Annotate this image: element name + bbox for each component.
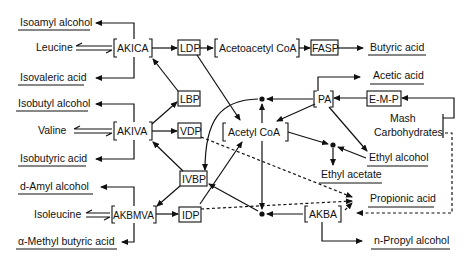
pathway-ldp-label: LDP	[180, 42, 200, 54]
bracket-left	[305, 206, 308, 222]
equilibrium-arrow	[86, 210, 110, 213]
arrow-to-isovaleric-acid	[96, 57, 134, 78]
dashed-arrow-vdp-propionic	[201, 137, 352, 197]
arrow-pa-acetylcoa	[277, 104, 315, 121]
dashed-arrow-akba-propionic	[345, 203, 352, 210]
pathway-emp-label: E-M-P	[369, 93, 399, 105]
arrow-ivbp-akiva	[153, 142, 183, 171]
bracket-right	[149, 122, 152, 140]
keto-acid-akba: AKBA	[309, 208, 337, 220]
amino-acid-valine: Valine	[38, 124, 67, 136]
equilibrium-arrow	[86, 217, 110, 220]
bracket-left	[215, 39, 218, 57]
arrow-to-d-amyl-alcohol	[101, 187, 134, 206]
product-isoamyl-alcohol: Isoamyl alcohol	[20, 16, 92, 28]
keto-acid-pa: PA	[318, 93, 331, 105]
product-alpha-methyl-butyric-acid: α-Methyl butyric acid	[18, 235, 115, 247]
arrow-acetylcoa-ester-dot	[288, 132, 328, 144]
source-carbohydrates: Carbohydrates	[374, 126, 443, 138]
keto-acid-akbmva: AKBMVA	[113, 210, 154, 221]
arrow-akiva-lbp	[152, 102, 177, 124]
product-butyric-acid: Butyric acid	[370, 41, 424, 53]
equilibrium-arrow	[74, 126, 112, 129]
product-ethyl-alcohol: Ethyl alcohol	[369, 151, 429, 163]
product-isobutyric-acid: Isobutyric acid	[20, 152, 87, 164]
arrow-lbp-akica	[153, 59, 178, 91]
pathway-lbp-label: LBP	[180, 93, 200, 105]
product-isovaleric-acid: Isovaleric acid	[20, 71, 87, 83]
arrow-to-isobutyric-acid	[96, 140, 134, 159]
bracket-right	[338, 206, 341, 222]
arrow-ethyl-alcohol-ester-dot	[338, 147, 366, 158]
pathway-fasp-label: FASP	[312, 42, 339, 54]
keto-acid-akiva: AKIVA	[117, 125, 147, 137]
intermediate-acetyl-coa: Acetyl CoA	[228, 126, 280, 138]
junction-dot	[259, 211, 264, 216]
amino-acid-isoleucine: Isoleucine	[34, 208, 81, 220]
equilibrium-arrow	[76, 43, 112, 46]
product-isobutyl-alcohol: Isobutyl alcohol	[18, 97, 90, 109]
product-acetic-acid: Acetic acid	[373, 69, 424, 81]
amino-acid-leucine: Leucine	[36, 41, 73, 53]
product-propionic-acid: Propionic acid	[370, 192, 436, 204]
junction-dot	[259, 96, 264, 101]
product-ethyl-acetate: Ethyl acetate	[321, 168, 382, 180]
equilibrium-arrow	[74, 133, 112, 136]
arrow-akba-n-propyl	[322, 222, 362, 241]
keto-acid-akica: AKICA	[117, 42, 149, 54]
product-n-propyl-alcohol: n-Propyl alcohol	[374, 234, 449, 246]
arrow-ivbp-akbmva	[157, 186, 180, 206]
pathway-ivbp-label: IVBP	[182, 173, 206, 185]
source-mash: Mash	[390, 112, 416, 124]
product-d-amyl-alcohol: d-Amyl alcohol	[20, 180, 89, 192]
bracket-left	[314, 91, 317, 107]
arrow-pa-acetic	[318, 77, 360, 91]
equilibrium-arrow	[76, 50, 112, 53]
pathway-diagram: Isoamyl alcohol Leucine Isovaleric acid …	[0, 0, 470, 261]
pathway-idp-label: IDP	[182, 209, 200, 221]
arrow-ldp-acetylcoa	[197, 55, 240, 120]
arrow-to-alpha-methyl-butyric	[122, 223, 134, 242]
bracket-left	[223, 123, 226, 141]
arrow-to-isobutyl-alcohol	[96, 104, 134, 122]
bracket-right	[285, 123, 288, 141]
intermediate-acetoacetyl-coa: Acetoacetyl CoA	[219, 42, 297, 54]
pathway-vdp-label: VDP	[180, 125, 202, 137]
bracket-right	[149, 39, 152, 57]
arrow-to-isoamyl-alcohol	[96, 23, 134, 39]
junction-dot	[330, 142, 335, 147]
